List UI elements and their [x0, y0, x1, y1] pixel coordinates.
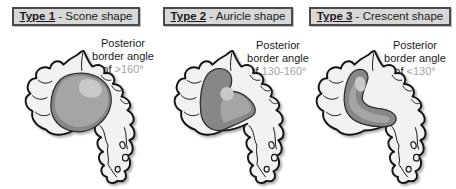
shape-label: - Auricle shape: [206, 10, 285, 22]
anatomy-illustration-type-1: [16, 47, 138, 185]
figure-canvas: Type 1 - Scone shape Posterior border an…: [0, 0, 456, 189]
type-label: Type 1: [20, 10, 56, 22]
foramen-hole: [414, 154, 420, 161]
type-1-header-row: Type 1 - Scone shape: [0, 6, 152, 26]
panel-type-2: Type 2 - Auricle shape Posterior border …: [152, 0, 304, 189]
type-label: Type 2: [171, 10, 207, 22]
foramen-hole: [406, 166, 411, 172]
foramen-hole: [115, 166, 120, 172]
region-highlight: [220, 87, 234, 101]
foramen-hole: [264, 166, 269, 172]
panel-type-3: Type 3 - Crescent shape Posterior border…: [304, 0, 456, 189]
foramen-hole: [272, 154, 278, 161]
type-2-header-row: Type 2 - Auricle shape: [152, 6, 304, 26]
type-label: Type 3: [317, 10, 353, 22]
type-1-header-box: Type 1 - Scone shape: [12, 7, 141, 26]
panel-type-1: Type 1 - Scone shape Posterior border an…: [0, 0, 152, 189]
foramen-hole: [123, 154, 129, 161]
shape-label: - Crescent shape: [352, 10, 443, 22]
shape-label: - Scone shape: [55, 10, 132, 22]
type-3-header-box: Type 3 - Crescent shape: [309, 7, 451, 26]
type-2-header-box: Type 2 - Auricle shape: [163, 7, 294, 26]
anatomy-illustration-type-3: [307, 47, 429, 185]
type-3-header-row: Type 3 - Crescent shape: [304, 6, 456, 26]
anatomy-illustration-type-2: [165, 47, 287, 185]
